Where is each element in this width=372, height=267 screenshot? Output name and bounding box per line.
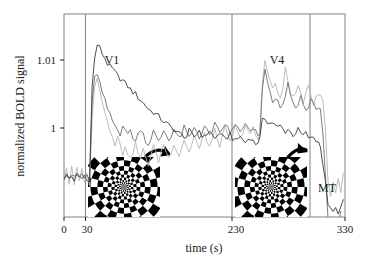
annotation-v1: V1 — [105, 53, 120, 67]
rotation-arrow-2 — [288, 143, 308, 157]
chart-canvas: 1.01 1 0 30 230 330 time (s) normalized … — [0, 0, 372, 267]
y-axis-title: normalized BOLD signal — [13, 55, 27, 177]
x-axis-title: time (s) — [186, 241, 223, 255]
annotation-mt: MT — [318, 181, 337, 195]
stimulus-icon-radial-checkerboard-1 — [82, 145, 166, 229]
annotation-v4: V4 — [270, 53, 285, 67]
x-axis-ticks — [64, 217, 345, 221]
y-tick-label-1-01: 1.01 — [37, 54, 56, 66]
y-tick-label-1: 1 — [51, 122, 57, 134]
x-tick-label-0: 0 — [61, 223, 67, 235]
x-tick-label-30: 30 — [82, 223, 94, 235]
stimulus-icon-radial-checkerboard-2 — [229, 145, 313, 229]
bold-signal-timecourse-figure: 1.01 1 0 30 230 330 time (s) normalized … — [0, 0, 372, 267]
x-tick-label-330: 330 — [337, 223, 354, 235]
y-axis-ticks — [60, 60, 64, 128]
x-tick-label-230: 230 — [228, 223, 245, 235]
